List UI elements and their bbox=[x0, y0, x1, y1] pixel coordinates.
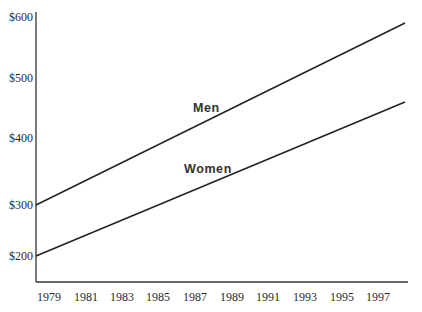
x-tick-label: 1987 bbox=[183, 290, 207, 304]
x-tick-label: 1979 bbox=[37, 290, 61, 304]
y-tick-label: $500 bbox=[9, 71, 33, 85]
men-series-line bbox=[36, 23, 405, 205]
x-tick-label: 1997 bbox=[366, 290, 390, 304]
women-series-line bbox=[36, 102, 405, 256]
x-tick-label: 1989 bbox=[220, 290, 244, 304]
x-tick-label: 1995 bbox=[330, 290, 354, 304]
y-tick-label: $600 bbox=[9, 10, 33, 24]
men-series-label: Men bbox=[193, 101, 220, 115]
x-tick-label: 1993 bbox=[293, 290, 317, 304]
x-tick-label: 1981 bbox=[74, 290, 98, 304]
x-tick-label: 1983 bbox=[110, 290, 134, 304]
y-tick-label: $400 bbox=[9, 131, 33, 145]
women-series-label: Women bbox=[184, 162, 232, 176]
x-tick-label: 1991 bbox=[256, 290, 280, 304]
line-chart: $600 $500 $400 $300 $200 1979 1981 1983 … bbox=[0, 0, 422, 312]
y-tick-label: $300 bbox=[9, 198, 33, 212]
x-tick-label: 1985 bbox=[146, 290, 170, 304]
y-tick-label: $200 bbox=[9, 249, 33, 263]
